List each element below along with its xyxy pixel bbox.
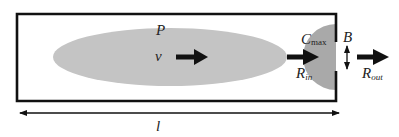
length-label: l — [156, 118, 160, 134]
outflow-arrow-icon — [357, 49, 389, 65]
r-in-label-main: R — [295, 65, 305, 81]
r-out-label-sub: out — [371, 72, 383, 82]
fluid-ellipse — [53, 28, 287, 86]
width-label: B — [343, 29, 352, 45]
pressure-label: P — [155, 22, 165, 38]
velocity-label: v — [155, 48, 162, 64]
cmax-label-sub: max — [311, 37, 327, 47]
r-out-label-main: R — [361, 65, 371, 81]
r-out-label: Rout — [361, 65, 383, 82]
r-in-label-sub: in — [305, 72, 313, 82]
diagram-canvas: P v Cmax B Rin Rout l — [0, 0, 399, 137]
